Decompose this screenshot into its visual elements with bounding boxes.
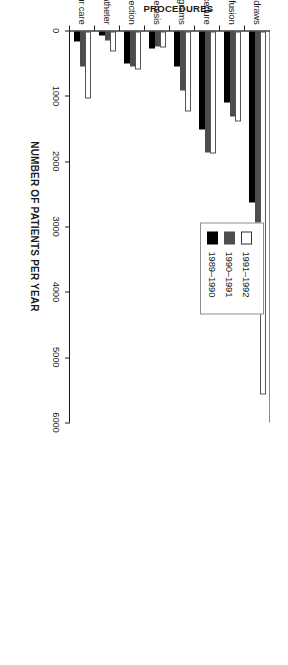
category-axis-tick [244,25,245,30]
bar [74,31,79,41]
bar [185,31,190,111]
value-axis-tick-label: 1000 [51,85,62,105]
category-axis-tick [219,25,220,30]
legend-label: 1990–1991 [225,251,236,297]
value-axis-tick-label: 2000 [51,150,62,170]
value-axis-tick [65,291,70,292]
value-axis-tick [65,422,70,423]
value-axis-tick [65,226,70,227]
value-axis-tick-label: 5000 [51,346,62,366]
value-axis-tick [65,30,70,31]
bar [205,31,210,152]
category-axis-tick [69,25,70,30]
bar [85,31,90,98]
legend-swatch-icon [242,231,253,244]
chart-canvas: IV infusions/blood drawsblood product tr… [0,0,288,665]
category-axis-tick [94,25,95,30]
legend-swatch-icon [208,231,219,244]
value-axis-tick [65,357,70,358]
category-axis-tick [144,25,145,30]
value-axis-title: NUMBER OF PATIENTS PER YEAR [29,30,40,422]
bar [160,31,165,47]
bar [80,31,85,66]
bar [235,31,240,121]
bar [105,31,110,40]
value-axis-tick-label: 0 [51,27,62,32]
value-axis-tick [65,161,70,162]
value-axis-tick-label: 6000 [51,412,62,432]
category-axis-title: PROCEDURES [79,3,279,14]
value-axis-tick-label: 3000 [51,216,62,236]
bar [230,31,235,116]
legend-item: 1989–1990 [206,231,220,297]
legend-label: 1991–1992 [242,251,253,297]
category-axis-tick [169,25,170,30]
bar [180,31,185,90]
bar [174,31,179,66]
bar [130,31,135,66]
bar [99,31,104,35]
legend-swatch-icon [225,231,236,244]
legend-item: 1991–1992 [240,231,254,297]
bar [155,31,160,46]
value-axis-tick-label: 4000 [51,281,62,301]
bar [210,31,215,153]
legend-item: 1990–1991 [223,231,237,297]
bar [149,31,154,48]
bar [110,31,115,51]
bar [199,31,204,129]
bar [249,31,254,202]
bar [135,31,140,69]
bar [124,31,129,63]
legend-label: 1989–1990 [208,251,219,297]
bar [260,31,265,394]
bar [224,31,229,102]
value-axis-tick [65,95,70,96]
category-axis-tick [194,25,195,30]
legend: 1991–19921990–19911989–1990 [200,222,264,314]
plot-frame-top [269,30,270,422]
category-axis-tick [119,25,120,30]
